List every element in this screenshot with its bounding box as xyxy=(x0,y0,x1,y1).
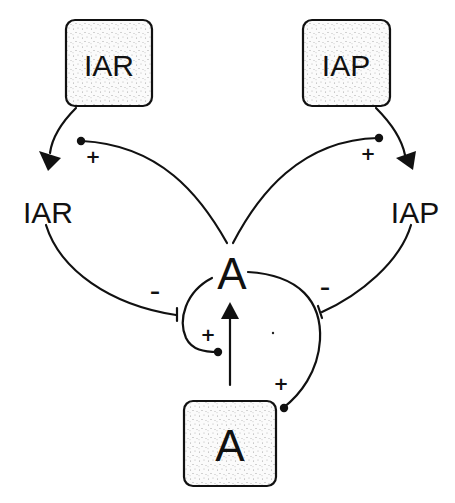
iar-node-label: IAR xyxy=(23,196,73,229)
dot-terminal-icon xyxy=(214,348,222,356)
dot-terminal-icon xyxy=(375,134,383,142)
arrowhead-icon xyxy=(396,151,416,170)
a-source-box: A xyxy=(184,401,276,486)
a-self-left-loop: + xyxy=(183,278,222,356)
a-node-label: A xyxy=(217,249,247,298)
iar-source-box: IAR xyxy=(66,20,152,106)
iap-source-box: IAP xyxy=(303,20,390,106)
iap-inhibits-a-edge: – xyxy=(318,225,411,318)
minus-sign: – xyxy=(320,275,330,299)
a-self-right-loop: + xyxy=(248,272,320,412)
iap-node-label: IAP xyxy=(391,196,439,229)
feedback-diagram: IAR IAP A IAR IAP A + + – xyxy=(0,0,455,503)
iar-inhibits-a-edge: – xyxy=(46,225,177,321)
minus-sign: – xyxy=(150,279,160,303)
a-production-arrow xyxy=(221,302,239,385)
speck xyxy=(272,332,274,334)
plus-sign: + xyxy=(200,324,215,345)
a-activates-iap-edge: + xyxy=(233,134,383,243)
plus-sign: + xyxy=(273,373,288,394)
arrowhead-icon xyxy=(221,302,239,319)
plus-sign: + xyxy=(85,146,100,167)
a-activates-iar-edge: + xyxy=(77,137,227,243)
dot-terminal-icon xyxy=(280,404,288,412)
iap-source-label: IAP xyxy=(322,49,370,82)
iar-source-label: IAR xyxy=(84,49,134,82)
plus-sign: + xyxy=(360,143,375,164)
iar-production-arrow xyxy=(39,108,76,171)
a-source-label: A xyxy=(215,421,245,470)
dot-terminal-icon xyxy=(77,137,85,145)
